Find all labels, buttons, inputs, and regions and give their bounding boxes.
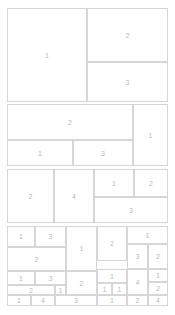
treemap-tile-label: 1 xyxy=(19,275,23,282)
treemap-tile: 1 xyxy=(66,226,97,271)
treemap-tile-label: 1 xyxy=(59,287,63,294)
treemap-tile: 2 xyxy=(66,271,97,295)
treemap-tile: 3 xyxy=(35,226,66,247)
treemap-tile-label: 1 xyxy=(112,180,116,187)
treemap-tile-label: 4 xyxy=(156,297,160,304)
treemap-tile: 4 xyxy=(31,295,55,306)
treemap-tile: 1 xyxy=(112,283,127,295)
treemap-tile-label: 3 xyxy=(49,233,53,240)
treemap-tile: 3 xyxy=(94,197,168,223)
treemap-tile: 1 xyxy=(97,295,127,306)
treemap-tile: 1 xyxy=(133,104,168,166)
treemap-tile: 2 xyxy=(148,282,168,295)
treemap-tile: 1 xyxy=(7,140,73,166)
treemap-tile: 2 xyxy=(148,244,168,269)
treemap-tile-label: 3 xyxy=(101,150,105,157)
treemap-tile: 3 xyxy=(35,271,66,285)
treemap-tile: 1 xyxy=(127,226,168,244)
treemap-tile-label: 1 xyxy=(146,232,150,239)
treemap-tile-label: 2 xyxy=(80,280,84,287)
treemap-tile: 4 xyxy=(127,269,148,295)
treemap-tile: 1 xyxy=(94,169,134,197)
treemap-tile: 4 xyxy=(148,295,168,306)
treemap-tile: 3 xyxy=(55,295,97,306)
treemap-tile-label: 4 xyxy=(72,193,76,200)
treemap-tile: 3 xyxy=(127,244,148,269)
treemap-tile-label: 1 xyxy=(19,233,23,240)
treemap-tile: 4 xyxy=(54,169,94,223)
treemap-tile: 1 xyxy=(7,8,87,102)
treemap-tile: 1 xyxy=(55,285,66,295)
treemap-tile-label: 1 xyxy=(110,273,114,280)
treemap-tile-label: 2 xyxy=(156,253,160,260)
treemap-tile-label: 1 xyxy=(149,132,153,139)
treemap-chart: 1232113241231312132213214121112143124 xyxy=(0,0,175,315)
treemap-tile-label: 2 xyxy=(149,180,153,187)
treemap-tile-label: 1 xyxy=(38,150,42,157)
treemap-tile-label: 3 xyxy=(74,297,78,304)
treemap-tile: 2 xyxy=(97,226,127,261)
treemap-tile-label: 2 xyxy=(156,285,160,292)
treemap-tile: 2 xyxy=(127,295,148,306)
treemap-tile: 1 xyxy=(148,269,168,282)
treemap-tile-label: 3 xyxy=(126,79,130,86)
treemap-tile-label: 2 xyxy=(29,193,33,200)
treemap-tile: 1 xyxy=(7,226,35,247)
treemap-tile-label: 1 xyxy=(156,272,160,279)
treemap-tile-label: 4 xyxy=(41,297,45,304)
treemap-tile: 2 xyxy=(87,8,168,62)
treemap-tile-label: 4 xyxy=(136,279,140,286)
treemap-tile-label: 1 xyxy=(45,52,49,59)
treemap-tile-label: 2 xyxy=(35,256,39,263)
treemap-tile: 3 xyxy=(73,140,133,166)
treemap-tile: 1 xyxy=(97,269,127,283)
treemap-tile-label: 3 xyxy=(136,253,140,260)
treemap-tile: 2 xyxy=(7,285,55,295)
treemap-tile: 2 xyxy=(7,247,66,271)
treemap-tile-label: 3 xyxy=(129,207,133,214)
treemap-tile: 1 xyxy=(7,295,31,306)
treemap-tile-label: 1 xyxy=(103,286,107,293)
treemap-tile: 2 xyxy=(7,169,54,223)
treemap-tile-label: 1 xyxy=(110,297,114,304)
treemap-tile-label: 2 xyxy=(110,240,114,247)
treemap-tile: 1 xyxy=(7,271,35,285)
treemap-tile-label: 2 xyxy=(29,287,33,294)
treemap-tile: 2 xyxy=(7,104,133,140)
treemap-tile-label: 2 xyxy=(68,119,72,126)
treemap-tile-label: 2 xyxy=(136,297,140,304)
treemap-tile-label: 3 xyxy=(49,275,53,282)
treemap-tile: 2 xyxy=(134,169,168,197)
treemap-tile-label: 1 xyxy=(17,297,21,304)
treemap-tile-label: 2 xyxy=(126,32,130,39)
treemap-tile-label: 1 xyxy=(118,286,122,293)
treemap-tile: 1 xyxy=(97,283,112,295)
treemap-tile-label: 1 xyxy=(80,245,84,252)
treemap-tile: 3 xyxy=(87,62,168,102)
